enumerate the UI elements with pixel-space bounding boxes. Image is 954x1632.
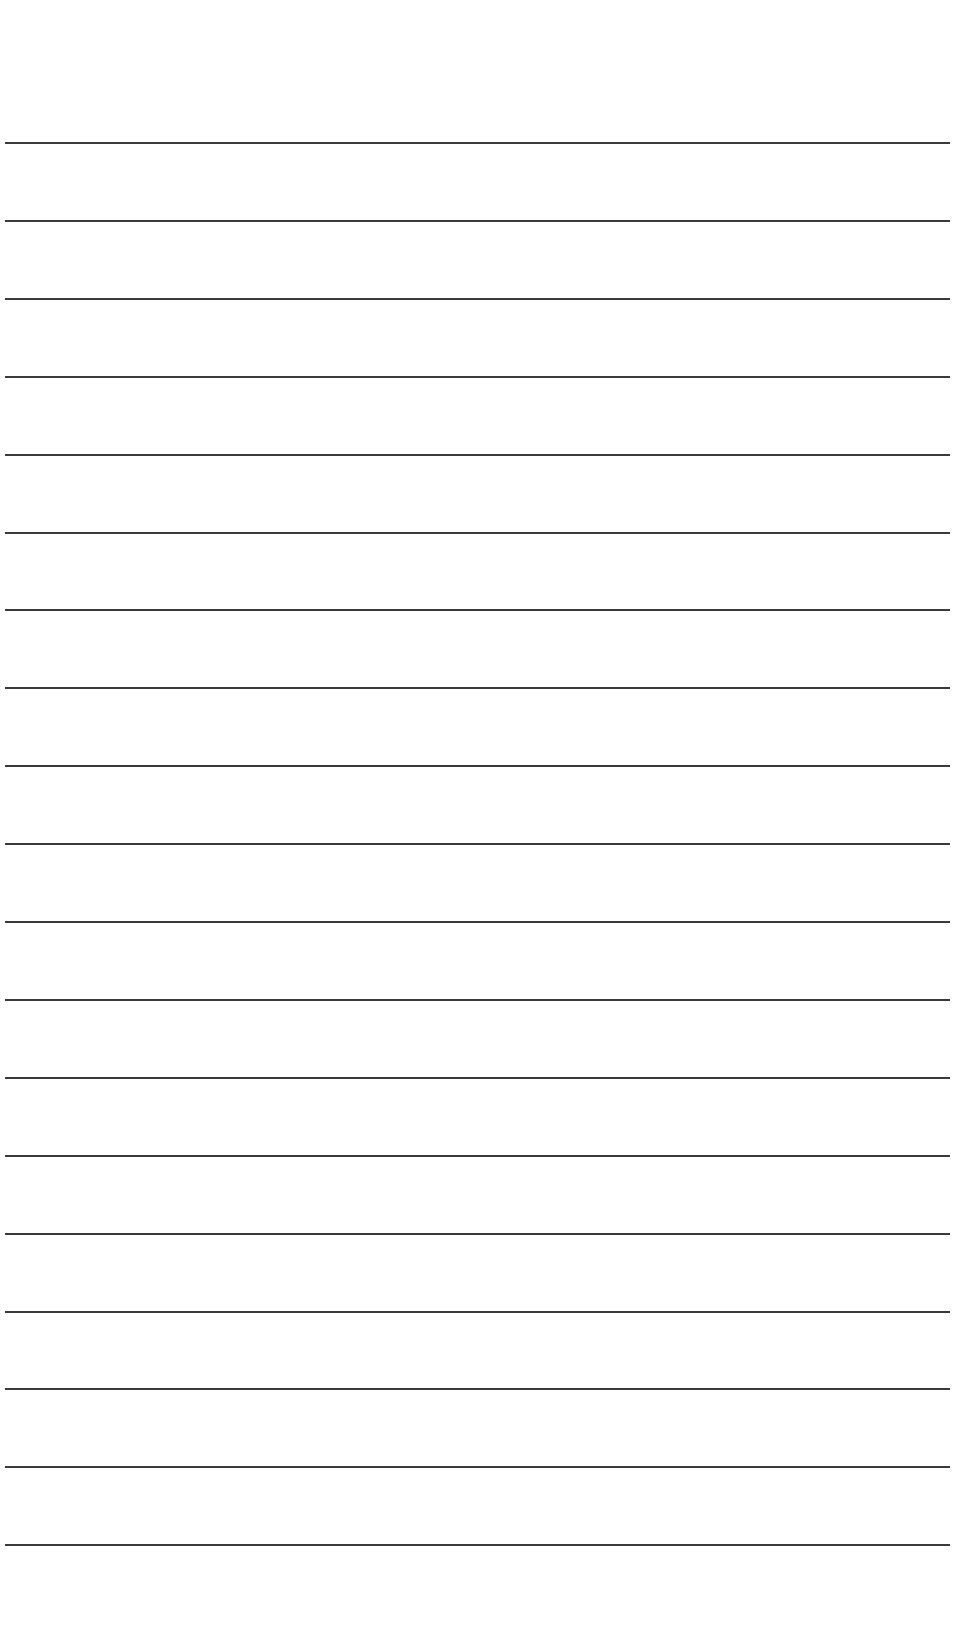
ruled-line (5, 765, 950, 767)
ruled-line (5, 1155, 950, 1157)
ruled-line (5, 1311, 950, 1313)
ruled-line (5, 687, 950, 689)
ruled-line (5, 609, 950, 611)
ruled-line (5, 142, 950, 144)
ruled-line (5, 376, 950, 378)
ruled-line (5, 1388, 950, 1390)
ruled-line (5, 921, 950, 923)
ruled-line (5, 1466, 950, 1468)
ruled-line (5, 298, 950, 300)
ruled-line (5, 532, 950, 534)
ruled-line (5, 1077, 950, 1079)
ruled-line (5, 220, 950, 222)
ruled-line (5, 999, 950, 1001)
ruled-line (5, 843, 950, 845)
ruled-line (5, 1544, 950, 1546)
ruled-line (5, 454, 950, 456)
ruled-line (5, 1233, 950, 1235)
